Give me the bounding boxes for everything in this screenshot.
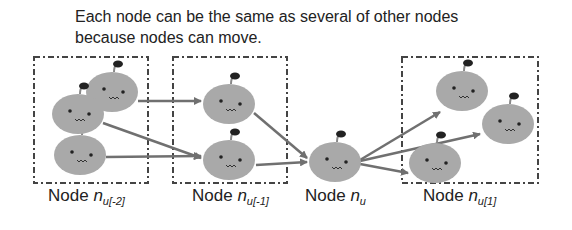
node-blob bbox=[203, 73, 255, 125]
node-blob bbox=[203, 129, 255, 181]
node-blob bbox=[436, 60, 488, 112]
label-node-u: Node nu bbox=[305, 186, 366, 207]
node-blob-u bbox=[309, 131, 361, 183]
label-node-u-minus-1: Node nu[-1] bbox=[192, 186, 269, 207]
label-node-u-minus-2: Node nu[-2] bbox=[48, 186, 125, 207]
label-node-u-plus-1: Node nu[1] bbox=[423, 186, 496, 207]
node-blob bbox=[482, 93, 534, 145]
